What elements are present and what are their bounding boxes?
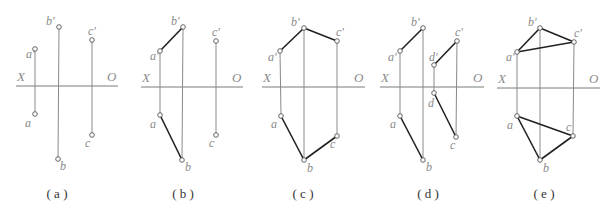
point-b-prime <box>57 25 62 30</box>
projection-figure: XOa'b'c'abc( a )XOa'b'c'abc( b )XOa'b'c'… <box>0 0 615 215</box>
point-a <box>279 114 284 119</box>
point-c <box>335 134 340 139</box>
axis-label-o: O <box>589 71 599 86</box>
point-label-c: c <box>330 137 336 151</box>
point-b <box>302 158 307 163</box>
point-label-c: c <box>450 138 456 152</box>
panel-caption: ( e ) <box>534 186 555 201</box>
point-a <box>158 113 163 118</box>
point-label-c: c <box>85 136 91 150</box>
panel-d: XOa'b'c'd'abcd( d ) <box>380 15 484 201</box>
axis-label-o: O <box>473 70 483 85</box>
edge-a-b <box>160 115 182 160</box>
point-label-a-prime: a' <box>268 50 277 64</box>
point-c <box>214 133 219 138</box>
edge-a-b <box>281 116 304 160</box>
point-b <box>538 158 543 163</box>
point-label-b-prime: b' <box>411 15 420 29</box>
point-label-a: a <box>507 118 513 132</box>
point-label-a: a <box>25 116 31 130</box>
point-a <box>515 114 520 119</box>
point-c-prime <box>214 39 219 44</box>
projection-line-c-prime <box>456 41 457 137</box>
point-label-c-prime: c' <box>336 25 344 39</box>
point-label-a: a <box>150 117 156 131</box>
projection-line-b-prime <box>58 27 59 159</box>
edge-a-b <box>400 116 423 160</box>
point-label-b-prime: b' <box>528 15 537 29</box>
point-b <box>180 158 185 163</box>
point-label-b-prime: b' <box>291 15 300 29</box>
edge-a-prime-b-prime <box>400 28 423 51</box>
point-a <box>398 114 403 119</box>
point-c-prime <box>455 39 460 44</box>
point-a <box>33 112 38 117</box>
axis-label-x: X <box>262 70 272 85</box>
point-label-b: b <box>60 159 66 173</box>
point-label-a-prime: a' <box>388 50 397 64</box>
point-label-b-prime: b' <box>171 14 180 28</box>
point-label-b: b <box>307 161 313 175</box>
axis-label-x: X <box>380 70 390 85</box>
edge-a-prime-b-prime <box>160 27 183 51</box>
point-label-a-prime: a' <box>506 50 515 64</box>
panel-caption: ( a ) <box>47 186 68 201</box>
point-label-c: c <box>566 120 572 134</box>
panel-e: XOa'b'c'abc( e ) <box>497 15 600 201</box>
edge-d-c <box>434 93 456 137</box>
edge-b-prime-c-prime <box>540 28 574 42</box>
point-c <box>90 133 95 138</box>
point-c <box>571 134 576 139</box>
point-b-prime <box>421 26 426 31</box>
point-label-b-prime: b' <box>46 14 55 28</box>
panel-caption: ( c ) <box>293 186 314 201</box>
axis-label-x: X <box>16 69 26 84</box>
edge-b-c <box>540 136 573 160</box>
point-c-prime <box>90 38 95 43</box>
axis-label-o: O <box>107 69 117 84</box>
projection-line-c-prime <box>573 42 574 136</box>
point-label-c-prime: c' <box>88 24 96 38</box>
axis-label-o: O <box>354 70 364 85</box>
panel-caption: ( d ) <box>417 186 439 201</box>
point-d <box>432 91 437 96</box>
point-b-prime <box>538 26 543 31</box>
point-label-a: a <box>390 117 396 131</box>
point-c-prime <box>335 39 340 44</box>
edge-b-prime-c-prime <box>304 28 337 41</box>
axis-label-x: X <box>141 70 151 85</box>
point-label-c: c <box>209 136 215 150</box>
point-label-a: a <box>271 117 277 131</box>
axis-label-x: X <box>497 71 507 86</box>
point-c-prime <box>572 40 577 45</box>
point-label-b: b <box>543 161 549 175</box>
projection-line-b-prime <box>182 27 183 160</box>
point-label-d-prime: d' <box>429 50 438 64</box>
point-a-prime <box>398 49 403 54</box>
point-b-prime <box>181 25 186 30</box>
point-label-c-prime: c' <box>455 25 463 39</box>
point-label-d: d <box>428 96 435 110</box>
panel-b: XOa'b'c'abc( b ) <box>141 14 243 201</box>
point-b <box>421 158 426 163</box>
edge-a-prime-b-prime <box>280 28 304 51</box>
point-label-a-prime: a' <box>150 49 159 63</box>
panel-c: XOa'b'c'abc( c ) <box>262 15 365 201</box>
point-a-prime <box>278 49 283 54</box>
point-label-c-prime: c' <box>574 26 582 40</box>
point-a-prime <box>515 50 520 55</box>
panel-caption: ( b ) <box>172 186 194 201</box>
axis-label-o: O <box>232 70 242 85</box>
panel-a: XOa'b'c'abc( a ) <box>16 14 118 201</box>
point-label-c-prime: c' <box>212 25 220 39</box>
point-label-a-prime: a' <box>26 47 35 61</box>
point-label-b: b <box>426 160 432 174</box>
point-label-b: b <box>185 160 191 174</box>
projection-line-a-prime <box>280 51 281 116</box>
point-b-prime <box>302 26 307 31</box>
